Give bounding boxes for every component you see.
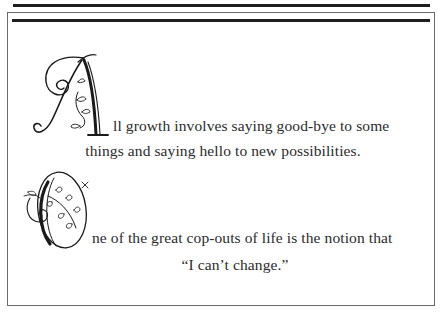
drop-cap-o-icon	[18, 168, 98, 256]
quote-1-line-2: things and saying hello to new possibili…	[0, 142, 446, 160]
quote-2-line-1-text: ne of the great cop-outs of life is the …	[92, 229, 392, 246]
inner-rule	[12, 19, 430, 22]
quote-1-line-1: All growth involves saying good-bye to s…	[113, 117, 389, 135]
quote-1-line-1-text: ll growth involves saying good-bye to so…	[113, 117, 389, 134]
top-rule	[13, 4, 430, 7]
quote-2-line-1: One of the great cop-outs of life is the…	[92, 229, 392, 247]
drop-cap-a-icon	[30, 52, 116, 140]
quote-2-line-2: “I can’t change.”	[12, 256, 446, 274]
